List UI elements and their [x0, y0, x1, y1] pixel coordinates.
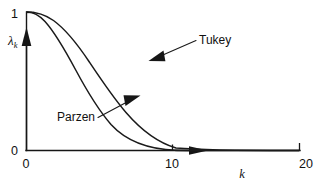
x-tick-label-0: 0 — [23, 157, 30, 171]
x-axis-label: k — [239, 167, 245, 181]
y-axis-label: λk — [7, 33, 18, 50]
y-tick-label-1: 1 — [11, 7, 18, 21]
x-tick-label-10: 10 — [165, 157, 179, 171]
x-tick-label-20: 20 — [299, 157, 313, 171]
series-label-tukey: Tukey — [199, 33, 231, 47]
series-line-tukey — [27, 12, 299, 151]
y-axis-label-subscript: k — [14, 40, 18, 50]
figure-container: 1 0 0 10 20 λk k Tukey Parzen — [0, 0, 326, 184]
annotation-parzen-leader — [98, 95, 141, 117]
y-axis-arrow-icon — [22, 27, 32, 150]
annotation-tukey-leader — [149, 41, 197, 62]
y-tick-label-0: 0 — [11, 144, 18, 158]
lag-window-chart: 1 0 0 10 20 λk k Tukey Parzen — [0, 0, 326, 184]
series-label-parzen: Parzen — [57, 110, 95, 124]
